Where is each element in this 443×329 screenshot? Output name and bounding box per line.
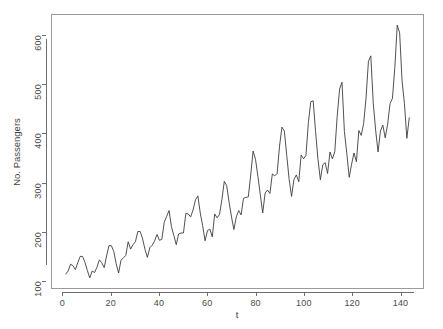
x-tick-label: 0 <box>60 298 65 308</box>
y-axis-line <box>46 39 47 265</box>
x-tick-mark <box>352 292 353 296</box>
x-tick-label: 140 <box>393 298 409 308</box>
y-tick-label: 600 <box>33 35 43 51</box>
y-tick-label: 400 <box>33 133 43 149</box>
x-tick-label: 40 <box>154 298 164 308</box>
x-tick-label: 20 <box>105 298 115 308</box>
y-axis-title: No. Passengers <box>11 118 22 186</box>
plot-area <box>51 14 424 289</box>
y-tick-label: 500 <box>33 84 43 100</box>
x-tick-label: 60 <box>202 298 212 308</box>
passenger-series-line <box>52 15 423 288</box>
y-tick-label: 200 <box>33 232 43 248</box>
y-tick-label: 100 <box>33 281 43 297</box>
x-axis-line <box>62 292 414 293</box>
chart-figure: 020406080100120140 100200300400500600 t … <box>0 0 443 329</box>
x-tick-mark <box>401 292 402 296</box>
x-tick-label: 80 <box>250 298 260 308</box>
x-tick-label: 100 <box>296 298 312 308</box>
x-tick-label: 120 <box>344 298 360 308</box>
x-tick-mark <box>159 292 160 296</box>
x-axis-title: t <box>236 309 239 320</box>
x-tick-mark <box>62 292 63 296</box>
x-tick-mark <box>111 292 112 296</box>
x-tick-mark <box>207 292 208 296</box>
x-tick-mark <box>304 292 305 296</box>
x-tick-mark <box>256 292 257 296</box>
y-tick-label: 300 <box>33 183 43 199</box>
